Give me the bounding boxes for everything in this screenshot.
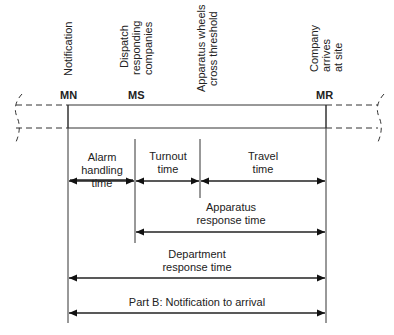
svg-text:time: time <box>92 177 113 189</box>
svg-text:Apparatus: Apparatus <box>206 201 257 213</box>
svg-text:responding: responding <box>130 21 142 75</box>
svg-text:at site: at site <box>332 43 344 72</box>
svg-text:Alarm: Alarm <box>88 151 117 163</box>
svg-text:time: time <box>158 163 179 175</box>
event-label-notification: Notification <box>62 22 74 76</box>
svg-text:Turnout: Turnout <box>149 150 187 162</box>
interval-travel: Travel time <box>248 150 278 175</box>
timeline-band <box>15 94 384 142</box>
event-label-apparatus-wheels: Apparatus wheels cross threshold <box>195 4 219 92</box>
marker-ms: MS <box>128 89 145 101</box>
marker-mn: MN <box>60 89 77 101</box>
svg-text:response time: response time <box>196 214 265 226</box>
event-label-dispatch: Dispatch responding companies <box>118 21 154 75</box>
svg-text:cross threshold: cross threshold <box>207 11 219 86</box>
interval-apparatus-response: Apparatus response time <box>136 201 325 236</box>
svg-text:companies: companies <box>142 21 154 75</box>
svg-text:handling: handling <box>81 164 123 176</box>
svg-text:Dispatch: Dispatch <box>118 25 130 68</box>
svg-text:Notification: Notification <box>62 22 74 76</box>
response-time-diagram: Notification Dispatch responding compani… <box>0 0 394 335</box>
svg-text:Company: Company <box>308 24 320 72</box>
interval-alarm-handling: Alarm handling time <box>70 151 133 189</box>
svg-text:Department: Department <box>168 248 225 260</box>
break-mark-right <box>377 94 384 142</box>
svg-text:response time: response time <box>162 261 231 273</box>
svg-text:arrives: arrives <box>320 38 332 72</box>
svg-text:time: time <box>253 163 274 175</box>
svg-text:Part B: Notification to arriva: Part B: Notification to arrival <box>129 296 265 308</box>
interval-turnout: Turnout time <box>149 150 187 175</box>
interval-part-b: Part B: Notification to arrival <box>69 296 325 317</box>
event-label-company-arrives: Company arrives at site <box>308 24 344 72</box>
break-mark-left <box>15 94 22 142</box>
marker-mr: MR <box>316 89 333 101</box>
svg-text:Travel: Travel <box>248 150 278 162</box>
svg-text:Apparatus wheels: Apparatus wheels <box>195 4 207 92</box>
interval-department-response: Department response time <box>69 248 325 282</box>
